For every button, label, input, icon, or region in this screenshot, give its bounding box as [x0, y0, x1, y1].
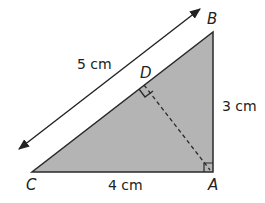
vertex-a-label: A [208, 176, 218, 194]
length-cb-label: 5 cm [77, 56, 112, 72]
length-ab-label: 3 cm [222, 98, 257, 114]
vertex-c-label: C [26, 176, 36, 194]
vertex-b-label: B [207, 10, 217, 28]
triangle-diagram: B D C A 5 cm 3 cm 4 cm [0, 0, 265, 203]
length-ca-label: 4 cm [108, 177, 143, 193]
vertex-d-label: D [140, 64, 152, 82]
triangle-abc [32, 32, 213, 172]
